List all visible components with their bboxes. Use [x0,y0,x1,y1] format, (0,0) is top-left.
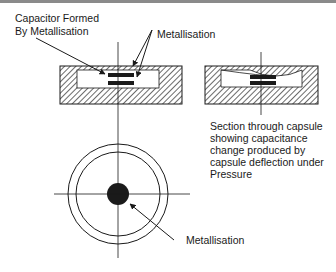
lower-metallisation-plate-deflected [250,81,276,85]
capsule-plan-view [54,144,190,244]
caption-line: showing capacitance [210,132,308,144]
label-capacitor-line1: Capacitor Formed [15,12,99,24]
caption-line: change produced by [210,144,306,156]
caption-line: Pressure [210,168,252,180]
lower-metallisation-plate [108,81,134,85]
capsule-section-deflected [205,52,318,115]
upper-metallisation-plate [108,73,134,77]
label-metallisation-top: Metallisation [157,28,216,40]
label-capacitor-line2: By Metallisation [15,25,89,37]
upper-metallisation-plate-deflected [250,75,276,79]
caption-line: Section through capsule [210,120,323,132]
caption-line: capsule deflection under [210,156,324,168]
metallisation-bottom-leader-arrow [130,204,174,240]
capacitor-capsule-diagram: Capacitor Formed By Metallisation Metall… [0,0,336,272]
label-metallisation-bottom: Metallisation [186,234,245,246]
capsule-section-undeflected [60,66,182,104]
